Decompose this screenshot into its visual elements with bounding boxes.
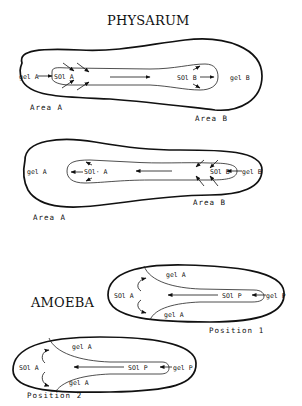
physarum-2-gel-b: gel B bbox=[242, 168, 262, 176]
amoeba-1-caption: Position 1 bbox=[209, 326, 264, 335]
amoeba-1-outline bbox=[108, 265, 284, 322]
physarum-1-gel-b: gel B bbox=[230, 74, 250, 82]
arrow-icon bbox=[210, 176, 218, 186]
physarum-1-gel-a: gel A bbox=[19, 73, 39, 81]
amoeba-title: AMOEBA bbox=[30, 295, 94, 310]
amoeba-1-gel-a-top: gel A bbox=[166, 271, 186, 279]
arrow-icon bbox=[196, 160, 204, 167]
arrow-icon bbox=[63, 63, 74, 71]
curved-arrow-icon bbox=[138, 300, 146, 313]
amoeba-position-1: gel A gel A SOl A SOl P gel P Position 1 bbox=[108, 265, 286, 335]
physarum-2-area-a: Area A bbox=[33, 213, 66, 222]
physarum-1-area-a: Area A bbox=[30, 103, 63, 112]
amoeba-position-2: gel A gel A SOl A SOl P gel P Position 2 bbox=[13, 337, 196, 400]
arrow-icon bbox=[86, 162, 92, 165]
arrow-icon bbox=[196, 176, 204, 186]
physarum-1-sol-b: SOl B bbox=[177, 74, 197, 82]
physarum-2-sol-a: SOl· A bbox=[84, 168, 108, 176]
physarum-2-area-b: Area B bbox=[193, 198, 226, 207]
arrow-icon bbox=[86, 178, 92, 181]
curved-arrow-icon bbox=[138, 278, 146, 291]
physarum-1-area-b: Area B bbox=[195, 114, 228, 123]
amoeba-1-gel-a-bottom: gel A bbox=[164, 311, 184, 319]
amoeba-2-gel-boundary bbox=[49, 338, 169, 391]
amoeba-2-sol-p: SOl P bbox=[128, 364, 148, 372]
amoeba-1-sol-p: SOl P bbox=[222, 292, 242, 300]
amoeba-2-sol-a: SOl A bbox=[19, 364, 39, 372]
amoeba-2-caption: Position 2 bbox=[27, 391, 82, 400]
arrow-icon bbox=[210, 160, 218, 168]
amoeba-1-sol-a: SOl A bbox=[114, 292, 134, 300]
physarum-2-gel-a: gel A bbox=[27, 168, 47, 176]
physarum-2-sol-b: SOl B bbox=[210, 168, 230, 176]
amoeba-1-gel-boundary bbox=[144, 266, 264, 320]
diagram-canvas: PHYSARUM gel A SOl A SOl B gel B Area A … bbox=[0, 0, 302, 406]
amoeba-2-gel-a-bottom: gel A bbox=[69, 379, 89, 387]
physarum-title: PHYSARUM bbox=[107, 13, 190, 28]
arrow-icon bbox=[77, 63, 89, 72]
arrow-icon bbox=[77, 82, 89, 90]
physarum-diagram-1: gel A SOl A SOl B gel B Area A Area B bbox=[19, 39, 262, 123]
physarum-diagram-2: gel A SOl· A SOl B gel B Area A Area B bbox=[24, 139, 262, 222]
arrow-icon bbox=[62, 80, 74, 88]
amoeba-1-gel-p: gel P bbox=[266, 292, 286, 300]
amoeba-2-gel-p: gel P bbox=[173, 364, 193, 372]
arrow-icon bbox=[193, 66, 200, 70]
physarum-1-sol-a: SOl A bbox=[54, 73, 74, 81]
curved-arrow-icon bbox=[42, 350, 49, 363]
amoeba-2-gel-a-top: gel A bbox=[72, 343, 92, 351]
arrow-icon bbox=[193, 84, 200, 88]
curved-arrow-icon bbox=[42, 372, 49, 386]
